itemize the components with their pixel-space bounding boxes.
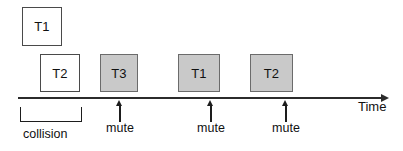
arrow-stem — [210, 104, 212, 122]
collision-bracket — [20, 107, 82, 122]
arrow-stem — [285, 104, 287, 122]
time-axis-label: Time — [358, 99, 386, 114]
frame-box-t3: T3 — [100, 54, 138, 92]
frame-label: T2 — [52, 66, 68, 81]
mute-label: mute — [106, 121, 134, 135]
timeline-diagram: T1 T2 T3 T1 T2 Time mute mute mute colli… — [0, 0, 403, 151]
time-axis-line — [18, 97, 382, 99]
frame-label: T2 — [264, 66, 280, 81]
arrow-stem — [119, 104, 121, 122]
frame-box-t1-collided: T1 — [22, 7, 62, 46]
frame-label: T1 — [34, 19, 50, 34]
collision-label: collision — [23, 127, 67, 141]
mute-label: mute — [197, 121, 225, 135]
frame-label: T3 — [111, 66, 127, 81]
frame-box-t2-success: T2 — [250, 54, 293, 92]
frame-label: T1 — [191, 66, 207, 81]
frame-box-t1-success: T1 — [178, 54, 220, 92]
frame-box-t2-collided: T2 — [40, 54, 80, 92]
mute-label: mute — [272, 121, 300, 135]
